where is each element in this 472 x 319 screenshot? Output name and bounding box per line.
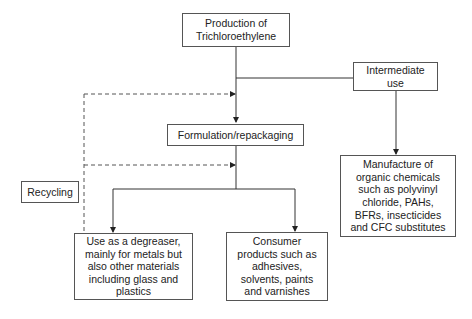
node-consumer-label: Consumer products such as adhesives, sol… [237, 235, 316, 298]
node-manufacture-label: Manufacture of organic chemicals such as… [350, 158, 445, 234]
node-intermediate-label: Intermediate use [366, 64, 424, 89]
node-formulation-label: Formulation/repackaging [178, 129, 294, 142]
node-manufacture: Manufacture of organic chemicals such as… [340, 155, 456, 237]
node-consumer-products: Consumer products such as adhesives, sol… [226, 232, 328, 301]
node-production: Production of Trichloroethylene [182, 13, 290, 47]
node-intermediate-use: Intermediate use [353, 62, 438, 91]
node-recycling: Recycling [21, 181, 79, 203]
node-degreaser: Use as a degreaser, mainly for metals bu… [74, 233, 193, 300]
node-recycling-label: Recycling [27, 186, 73, 199]
node-production-label: Production of Trichloroethylene [196, 17, 276, 42]
node-formulation: Formulation/repackaging [167, 124, 304, 146]
node-degreaser-label: Use as a degreaser, mainly for metals bu… [85, 235, 182, 298]
